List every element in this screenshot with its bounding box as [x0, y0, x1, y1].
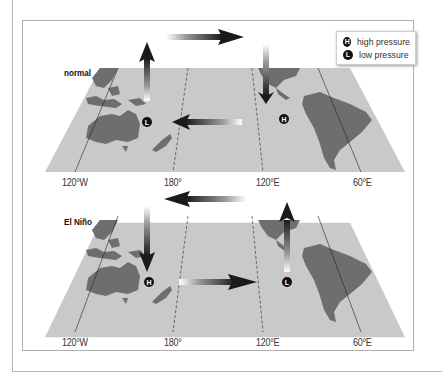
el-nino-high-pressure-badge: H: [144, 277, 154, 287]
legend-item-high: H high pressure: [343, 35, 415, 48]
svg-text:H: H: [281, 116, 286, 123]
longitude-label: 120°E: [256, 337, 279, 348]
normal-low-pressure-badge: L: [142, 117, 152, 127]
longitude-label: 60°E: [353, 337, 372, 348]
longitude-label: 120°E: [256, 177, 279, 188]
normal-high-pressure-badge: H: [279, 114, 289, 124]
el-nino-arrow-upper-west: [164, 191, 246, 207]
el-nino-low-pressure-badge: L: [282, 277, 292, 287]
legend-label: low pressure: [359, 49, 409, 60]
longitude-label: 120°W: [62, 337, 88, 348]
svg-text:L: L: [285, 279, 290, 286]
longitude-label: 120°W: [62, 177, 88, 188]
svg-text:L: L: [145, 119, 150, 126]
legend-label: high pressure: [357, 36, 410, 47]
panel-title-el-nino: El Niño: [64, 217, 92, 227]
high-pressure-icon: H: [343, 37, 351, 47]
legend: H high pressure L low pressure: [336, 31, 416, 65]
longitude-label: 180°: [164, 177, 182, 188]
normal-arrow-upper-east: [166, 29, 244, 45]
longitude-label: 60°E: [353, 177, 372, 188]
longitude-label: 180°: [164, 337, 182, 348]
legend-item-low: L low pressure: [343, 48, 415, 61]
svg-text:H: H: [146, 279, 151, 286]
low-pressure-icon: L: [343, 50, 353, 60]
panel-title-normal: normal: [64, 68, 91, 78]
